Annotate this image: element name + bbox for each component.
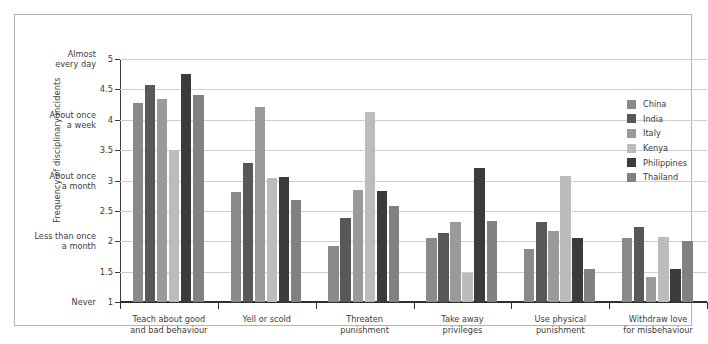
bar-group (316, 59, 414, 302)
y-tick-label: 1.5 (100, 267, 113, 277)
x-axis-label: Teach about goodand bad behaviour (114, 314, 224, 336)
bar[interactable] (279, 177, 289, 302)
bar[interactable] (634, 227, 644, 302)
bar[interactable] (646, 277, 656, 303)
legend: ChinaIndiaItalyKenyaPhilippinesThailand (627, 97, 708, 185)
bar[interactable] (438, 233, 448, 302)
bar[interactable] (426, 238, 436, 302)
y-tick-label: 3 (108, 176, 113, 186)
x-axis-label-line: punishment (505, 325, 615, 336)
y-axis-text-line: About once (49, 110, 96, 120)
y-tick-label: 5 (108, 54, 113, 64)
y-axis-title: Frequency of disciplinary incidents (52, 40, 62, 260)
bar[interactable] (377, 191, 387, 302)
bar[interactable] (353, 190, 363, 302)
bar-group (218, 59, 316, 302)
y-axis-text-line: Almost (55, 49, 96, 59)
bar[interactable] (462, 273, 472, 302)
figure: Frequency of disciplinary incidents 11.5… (0, 0, 708, 344)
x-axis-label-line: for misbehaviour (603, 325, 708, 336)
bar[interactable] (389, 206, 399, 302)
y-tick-label: 3.5 (100, 145, 113, 155)
bar[interactable] (340, 218, 350, 302)
bar[interactable] (365, 112, 375, 302)
bar[interactable] (536, 222, 546, 302)
y-axis-text-line: Less than once (34, 231, 96, 241)
legend-label: China (643, 99, 666, 109)
x-axis-label-line: Take away (407, 314, 517, 325)
x-axis-label-line: Use physical (505, 314, 615, 325)
legend-swatch-icon (627, 114, 636, 123)
bar[interactable] (255, 107, 265, 302)
bar[interactable] (243, 163, 253, 302)
bar[interactable] (658, 237, 668, 302)
legend-swatch-icon (627, 144, 636, 153)
legend-swatch-icon (627, 158, 636, 167)
x-axis-label-line: punishment (310, 325, 420, 336)
y-tick-label: 4.5 (100, 84, 113, 94)
x-axis-label-line: Teach about good (114, 314, 224, 325)
x-axis-label-line: Yell or scold (212, 314, 322, 325)
bar-group (414, 59, 512, 302)
y-axis-text-line: a week (49, 120, 96, 130)
y-axis-text-line: a month (49, 181, 96, 191)
legend-item-italy[interactable]: Italy (627, 126, 708, 141)
legend-swatch-icon (627, 100, 636, 109)
legend-item-china[interactable]: China (627, 97, 708, 112)
y-axis-text-label: About oncea month (49, 170, 96, 190)
legend-label: India (643, 114, 663, 124)
bar[interactable] (474, 168, 484, 302)
bar[interactable] (267, 178, 277, 302)
legend-swatch-icon (627, 129, 636, 138)
bar[interactable] (157, 99, 167, 302)
legend-label: Kenya (643, 143, 668, 153)
bar[interactable] (670, 269, 680, 302)
x-axis-label-line: privileges (407, 325, 517, 336)
x-tick-mark (218, 302, 219, 309)
bar[interactable] (193, 95, 203, 302)
legend-label: Thailand (643, 172, 678, 182)
legend-item-thailand[interactable]: Thailand (627, 170, 708, 185)
bar[interactable] (622, 238, 632, 302)
x-tick-mark (120, 302, 121, 309)
bar[interactable] (169, 150, 179, 302)
y-axis-text-line: a month (34, 241, 96, 251)
x-axis-label-line: Withdraw love (603, 314, 708, 325)
bar[interactable] (682, 241, 692, 302)
plot-area: 11.522.533.544.55 Almostevery dayAbout o… (120, 59, 707, 302)
legend-item-philippines[interactable]: Philippines (627, 155, 708, 170)
bar[interactable] (145, 85, 155, 302)
bar-group (511, 59, 609, 302)
bar[interactable] (181, 74, 191, 302)
bar[interactable] (328, 246, 338, 302)
bar[interactable] (584, 269, 594, 302)
y-axis-text-line: Never (72, 297, 96, 307)
x-axis-label: Take awayprivileges (407, 314, 517, 336)
legend-label: Italy (643, 128, 661, 138)
chart-frame: Frequency of disciplinary incidents 11.5… (14, 14, 692, 326)
x-axis-label: Withdraw lovefor misbehaviour (603, 314, 708, 336)
y-axis-text-line: every day (55, 59, 96, 69)
bar[interactable] (572, 238, 582, 302)
x-axis-label: Yell or scold (212, 314, 322, 325)
y-tick-label: 2 (108, 236, 113, 246)
x-tick-mark (511, 302, 512, 309)
y-axis-text-label: Less than oncea month (34, 231, 96, 251)
bar[interactable] (450, 222, 460, 302)
bar[interactable] (291, 200, 301, 302)
y-axis-text-label: About oncea week (49, 110, 96, 130)
x-axis-label-line: and bad behaviour (114, 325, 224, 336)
legend-item-india[interactable]: India (627, 112, 708, 127)
x-tick-mark (609, 302, 610, 309)
y-tick-label: 2.5 (100, 206, 113, 216)
bar[interactable] (487, 221, 497, 302)
bar[interactable] (231, 192, 241, 302)
x-tick-mark (414, 302, 415, 309)
bar[interactable] (560, 176, 570, 302)
bar[interactable] (133, 103, 143, 302)
bar[interactable] (548, 231, 558, 302)
bar[interactable] (524, 249, 534, 302)
y-tick-label: 4 (108, 115, 113, 125)
legend-item-kenya[interactable]: Kenya (627, 141, 708, 156)
y-tick-label: 1 (108, 297, 113, 307)
